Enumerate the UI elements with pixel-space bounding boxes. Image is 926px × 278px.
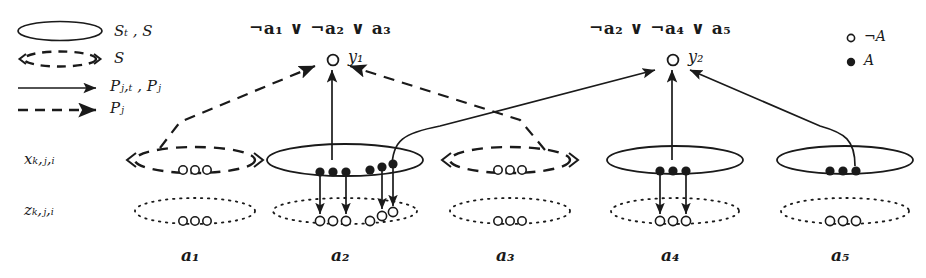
legend-label-a: A xyxy=(864,52,874,68)
col-a5-z-nodes xyxy=(825,216,860,225)
legend-label-solid-ellipse: Sₜ , S xyxy=(114,22,153,40)
figure-canvas xyxy=(0,0,926,278)
edge-a1-to-y1 xyxy=(160,66,315,148)
row-label-x: xₖ,ⱼ,ᵢ xyxy=(24,150,54,168)
col-a3-x-nodes xyxy=(494,166,526,174)
col-label-a3: a₃ xyxy=(496,245,514,265)
legend-label-not-a: ¬A xyxy=(864,28,886,44)
legend-label-dashed-arrow: Pⱼ xyxy=(110,99,124,117)
col-a5-x-nodes xyxy=(825,166,860,175)
col-a1-z-nodes xyxy=(179,217,211,225)
col-a3-z-nodes xyxy=(494,217,526,225)
col-label-a1: a₁ xyxy=(181,245,199,265)
clause-2-text: ¬a₂ ∨ ¬a₄ ∨ a₅ xyxy=(589,18,731,38)
clause-1-text: ¬a₁ ∨ ¬a₂ ∨ a₃ xyxy=(249,18,391,38)
col-label-a2: a₂ xyxy=(331,245,349,265)
col-label-a5: a₅ xyxy=(831,245,849,265)
legend-dashed-ellipse-icon xyxy=(20,52,101,67)
legend-label-dashed-ellipse: S xyxy=(114,49,124,67)
col-label-a4: a₄ xyxy=(661,245,679,265)
col-a4-z-nodes xyxy=(655,216,690,225)
edge-a3-to-y1 xyxy=(350,66,545,150)
hollow-circle-icon xyxy=(847,34,854,41)
edge-a5-to-y2 xyxy=(690,70,855,166)
col-a4-x-nodes xyxy=(655,166,690,175)
col-a4-xz-arrows xyxy=(660,175,686,214)
node-y1-label: y₁ xyxy=(348,47,363,66)
legend-label-solid-arrow: Pⱼ,ₜ , Pⱼ xyxy=(110,77,161,95)
col-a1-x-nodes xyxy=(179,166,211,174)
graph-figure: Sₜ , S S Pⱼ,ₜ , Pⱼ Pⱼ ¬A A ¬a₁ ∨ ¬a₂ ∨ a… xyxy=(0,0,926,278)
node-y2-label: y₂ xyxy=(688,47,703,66)
node-y1[interactable] xyxy=(328,55,339,66)
row-label-z: zₖ,ⱼ,ᵢ xyxy=(24,201,54,219)
filled-circle-icon xyxy=(847,58,855,66)
legend-solid-ellipse-icon xyxy=(18,22,102,41)
node-y2[interactable] xyxy=(668,55,679,66)
